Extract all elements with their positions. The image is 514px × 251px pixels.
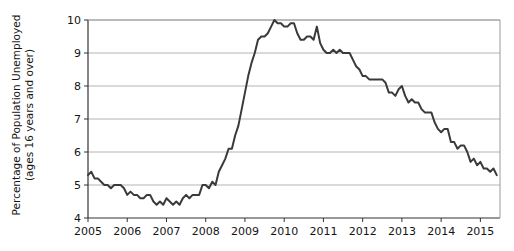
x-tick-label: 2015	[466, 225, 494, 238]
y-tick-label: 7	[74, 113, 81, 126]
x-tick-label: 2014	[427, 225, 455, 238]
x-tick-label: 2010	[270, 225, 298, 238]
gridlines	[88, 20, 500, 185]
y-tick-label: 10	[67, 14, 81, 27]
unemployment-line-chart: Percentage of Population Unemployed (age…	[0, 0, 514, 251]
y-tick-labels: 45678910	[67, 14, 81, 225]
x-tick-label: 2009	[231, 225, 259, 238]
x-tick-label: 2008	[192, 225, 220, 238]
plot-area: 45678910 2005200620072008200920102011201…	[0, 0, 514, 251]
x-tick-label: 2005	[74, 225, 102, 238]
x-tick-label: 2013	[388, 225, 416, 238]
x-tick-labels: 2005200620072008200920102011201220132014…	[74, 225, 494, 238]
data-series-line	[88, 20, 497, 205]
y-tick-label: 6	[74, 146, 81, 159]
y-tick-label: 9	[74, 47, 81, 60]
y-tick-label: 4	[74, 212, 81, 225]
x-tick-label: 2007	[152, 225, 180, 238]
y-tick-label: 5	[74, 179, 81, 192]
x-tick-marks	[88, 218, 480, 222]
y-tick-label: 8	[74, 80, 81, 93]
x-tick-label: 2006	[113, 225, 141, 238]
x-tick-label: 2012	[349, 225, 377, 238]
x-tick-label: 2011	[309, 225, 337, 238]
